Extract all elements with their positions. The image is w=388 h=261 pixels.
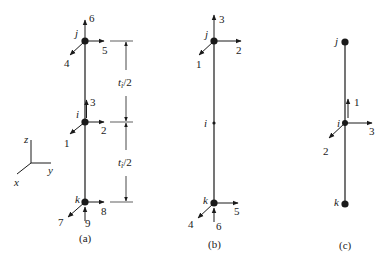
node-i-label: i	[76, 108, 79, 120]
node-j-label: j	[333, 35, 338, 47]
dof-label: 3	[369, 125, 375, 137]
node-k-label: k	[75, 193, 81, 205]
dof-label: 9	[85, 217, 91, 229]
panel-b: j 3 2 1 i k 6 5 4 (b)	[188, 13, 242, 251]
dof-label: 1	[354, 96, 360, 108]
dof-label: 7	[58, 216, 64, 228]
dof-label: 1	[64, 137, 70, 149]
dimension-label-upper: ti/2	[118, 76, 132, 90]
panel-caption: (c)	[339, 239, 352, 252]
node-j-label: j	[73, 27, 78, 39]
dof-label: 3	[90, 96, 96, 108]
z-axis-label: z	[23, 133, 29, 145]
dof-label: 6	[89, 12, 95, 24]
dof-label: 4	[188, 218, 194, 230]
dof-arrow-out	[70, 41, 85, 55]
dof-label: 5	[234, 205, 240, 217]
dimension-lines: ti/2 ti/2	[110, 41, 133, 202]
dof-arrow-out	[199, 41, 214, 55]
dof-label: 6	[216, 220, 222, 232]
dof-label: 2	[101, 124, 107, 136]
finite-element-dof-figure: z y x j 6 5 4 i 3 2 1 k 9 8 7	[0, 0, 388, 261]
node-i-dot	[212, 121, 215, 124]
dimension-label-lower: ti/2	[118, 156, 132, 170]
dof-label: 2	[236, 44, 242, 56]
coordinate-axes: z y x	[13, 133, 53, 188]
node-j-dot	[341, 38, 348, 45]
panel-caption: (b)	[208, 238, 221, 251]
x-axis-label: x	[13, 176, 19, 188]
dof-arrow-out	[70, 122, 85, 134]
panel-caption: (a)	[79, 232, 92, 245]
node-k-label: k	[334, 196, 340, 208]
node-k-label: k	[203, 194, 209, 206]
dof-label: 5	[102, 44, 108, 56]
node-j-label: j	[203, 28, 208, 40]
dof-label: 1	[196, 58, 202, 70]
dof-label: 4	[64, 57, 70, 69]
node-k-dot	[341, 200, 348, 207]
diagram-canvas: z y x j 6 5 4 i 3 2 1 k 9 8 7	[0, 0, 388, 261]
dof-label: 3	[219, 13, 225, 25]
dof-label: 8	[101, 205, 107, 217]
panel-a: j 6 5 4 i 3 2 1 k 9 8 7	[58, 12, 133, 245]
node-i-label: i	[337, 117, 340, 129]
y-axis-label: y	[47, 164, 53, 176]
x-axis	[17, 163, 31, 174]
panel-c: j i 1 3 2 k (c)	[323, 35, 375, 252]
dof-label: 2	[323, 145, 329, 157]
node-i-label: i	[204, 117, 207, 129]
